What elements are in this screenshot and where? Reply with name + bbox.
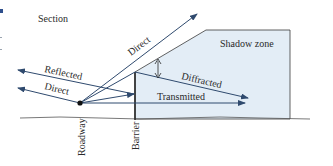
transmitted-label: Transmitted <box>157 91 205 102</box>
noise-source-dot <box>77 100 82 105</box>
direct-up-label: Direct <box>126 34 153 58</box>
left-margin-tick <box>0 37 2 38</box>
barrier-label: Barrier <box>130 121 141 150</box>
roadway-label: Roadway <box>76 118 87 156</box>
section-title: Section <box>38 13 68 24</box>
left-margin-tick <box>0 49 2 50</box>
direct-left-label: Direct <box>44 80 71 97</box>
shadow-zone-label: Shadow zone <box>220 38 274 49</box>
noise-barrier-section-diagram: Section Shadow zone Direct Reflected Dir… <box>0 0 333 166</box>
left-margin-marker <box>0 9 3 13</box>
